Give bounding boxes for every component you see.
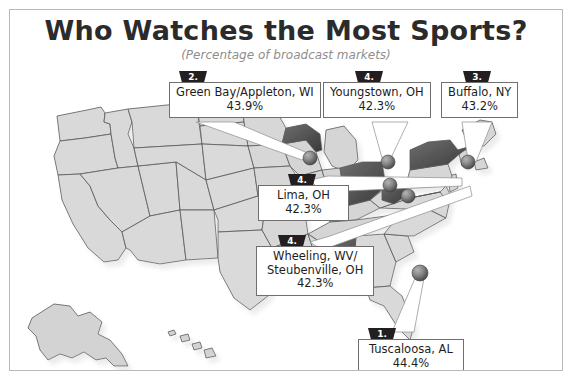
callout-place: Wheeling, WV/ (267, 250, 363, 264)
callout-percent: 44.4% (369, 357, 453, 371)
infographic-panel: Who Watches the Most Sports? (Percentage… (9, 9, 563, 371)
hawaii-island-4 (204, 348, 216, 358)
hawaii-island-3 (192, 342, 202, 350)
marker-buffalo (461, 155, 475, 169)
callout-body: Tuscaloosa, AL 44.4% (358, 339, 464, 371)
marker-wheeling (401, 189, 415, 203)
pointer-youngstown (372, 122, 408, 160)
state-group-alaska-hawaii (28, 304, 216, 366)
marker-lima (383, 178, 397, 192)
page-title: Who Watches the Most Sports? (10, 15, 562, 46)
callout-place: Buffalo, NY (448, 86, 511, 100)
hawaii-island-1 (168, 330, 176, 336)
callout-percent: 42.3% (267, 277, 363, 291)
callout-place-line2: Steubenville, OH (267, 264, 363, 278)
state-group-west (54, 102, 218, 264)
marker-youngstown (381, 155, 395, 169)
callout-percent: 42.3% (330, 100, 424, 114)
callout-percent: 43.9% (176, 100, 314, 114)
hawaii-island-2 (180, 334, 190, 342)
callout-body: Buffalo, NY 43.2% (441, 82, 518, 118)
callout-place: Green Bay/Appleton, WI (176, 86, 314, 100)
callout-place: Youngstown, OH (330, 86, 424, 100)
callout-percent: 42.3% (277, 203, 330, 217)
state-alaska (28, 304, 128, 366)
callout-place: Tuscaloosa, AL (369, 343, 453, 357)
callout-body: Lima, OH 42.3% (258, 185, 349, 221)
callout-body: Green Bay/Appleton, WI 43.9% (169, 82, 321, 118)
marker-green-bay (303, 151, 317, 165)
page-subtitle: (Percentage of broadcast markets) (10, 48, 562, 62)
callout-body: Wheeling, WV/ Steubenville, OH 42.3% (256, 246, 374, 296)
callout-place: Lima, OH (277, 189, 330, 203)
marker-tuscaloosa (412, 265, 428, 281)
callout-percent: 43.2% (448, 100, 511, 114)
callout-body: Youngstown, OH 42.3% (323, 82, 431, 118)
